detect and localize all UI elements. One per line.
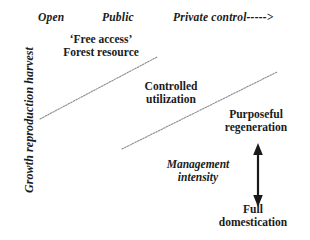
zone-label-full-domestication-line1: Full <box>198 203 308 216</box>
figure-canvas: Growth reproduction harvest Open Public … <box>0 0 310 240</box>
zone-label-full-domestication-line2: domestication <box>198 216 308 229</box>
zone-label-free-access: ‘Free access’ Forest resource <box>46 33 156 59</box>
y-axis-label: Growth reproduction harvest <box>22 20 37 220</box>
zone-label-purposeful-regeneration: Purposeful regeneration <box>206 108 306 134</box>
management-intensity-label-line1: Management <box>150 158 246 171</box>
zone-label-free-access-line2: Forest resource <box>46 46 156 59</box>
zone-label-controlled-utilization: Controlled utilization <box>128 80 214 106</box>
top-axis-label-public: Public <box>102 11 134 24</box>
top-axis-label-private-control: Private control-----> <box>173 11 274 24</box>
zone-label-purposeful-regeneration-line1: Purposeful <box>206 108 306 121</box>
management-intensity-label: Management intensity <box>150 158 246 184</box>
zone-label-controlled-utilization-line2: utilization <box>128 93 214 106</box>
zone-label-controlled-utilization-line1: Controlled <box>128 80 214 93</box>
zone-label-purposeful-regeneration-line2: regeneration <box>206 121 306 134</box>
management-intensity-arrow <box>253 143 263 207</box>
zone-label-full-domestication: Full domestication <box>198 203 308 229</box>
zone-label-free-access-line1: ‘Free access’ <box>46 33 156 46</box>
top-axis-label-open: Open <box>38 11 64 24</box>
arrow-head-up-icon <box>253 143 263 155</box>
management-intensity-label-line2: intensity <box>150 171 246 184</box>
